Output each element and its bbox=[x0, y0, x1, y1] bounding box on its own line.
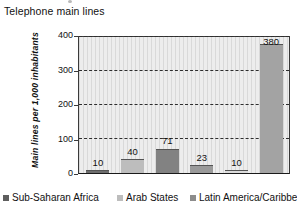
bar bbox=[260, 44, 283, 173]
bar-value-label: 40 bbox=[117, 147, 149, 157]
legend-swatch-icon bbox=[117, 195, 123, 201]
y-tick-label: 300 bbox=[43, 66, 73, 75]
bar-value-label: 380 bbox=[255, 37, 287, 47]
plot-texture bbox=[79, 37, 289, 173]
gridline bbox=[79, 138, 289, 139]
bar-value-label: 23 bbox=[186, 153, 218, 163]
bar bbox=[156, 149, 179, 173]
legend-label: Latin America/Caribbean bbox=[199, 192, 297, 204]
legend-swatch-icon bbox=[190, 195, 196, 201]
gridline bbox=[79, 104, 289, 105]
legend-label: Sub-Saharan Africa bbox=[12, 192, 99, 204]
bar-value-label: 10 bbox=[82, 158, 114, 168]
bar bbox=[121, 159, 144, 173]
plot-area: 1040712310380 bbox=[78, 36, 290, 174]
bar bbox=[190, 165, 213, 173]
legend-swatch-icon bbox=[3, 195, 9, 201]
bar bbox=[86, 170, 109, 173]
legend-item[interactable]: Latin America/Caribbean bbox=[190, 192, 297, 204]
y-tick-label: 400 bbox=[43, 31, 73, 40]
chart-container: Telephone main lines Main lines per 1,00… bbox=[0, 0, 297, 205]
bar-value-label: 71 bbox=[151, 136, 183, 146]
bar bbox=[225, 170, 248, 173]
legend-item[interactable]: Arab States bbox=[117, 192, 178, 204]
gridline bbox=[79, 70, 289, 71]
y-tick-label: 100 bbox=[43, 135, 73, 144]
scan-artifact-speck bbox=[68, 0, 72, 3]
y-axis-title: Main lines per 1,000 inhabitants bbox=[30, 30, 40, 170]
legend-item[interactable]: Sub-Saharan Africa bbox=[3, 192, 99, 204]
legend-label: Arab States bbox=[126, 192, 178, 204]
bar-value-label: 10 bbox=[221, 158, 253, 168]
chart-title: Telephone main lines bbox=[4, 5, 105, 17]
y-tick-label: 0 bbox=[43, 169, 73, 178]
y-tick-label: 200 bbox=[43, 100, 73, 109]
chart-legend: Sub-Saharan AfricaArab StatesLatin Ameri… bbox=[0, 192, 297, 205]
y-tick-mark bbox=[74, 174, 78, 175]
